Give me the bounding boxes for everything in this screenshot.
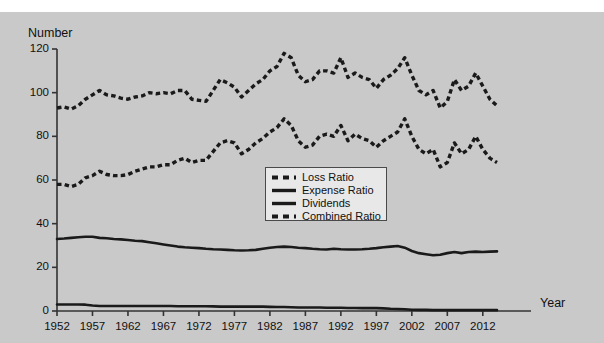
chart-figure: Number Year 020406080100120 195219571962… xyxy=(0,0,604,343)
legend-swatch-dashed-icon xyxy=(271,172,297,183)
series-line-dividends xyxy=(57,304,497,310)
legend-item-expense-ratio[interactable]: Expense Ratio xyxy=(271,184,382,196)
legend-label: Dividends xyxy=(302,198,350,209)
legend-label: Expense Ratio xyxy=(302,185,374,196)
series-line-expense-ratio xyxy=(57,237,497,256)
series-line-combined-ratio xyxy=(57,53,497,109)
legend-item-combined-ratio[interactable]: Combined Ratio xyxy=(271,210,382,222)
chart-legend: Loss RatioExpense RatioDividendsCombined… xyxy=(265,167,387,221)
legend-item-loss-ratio[interactable]: Loss Ratio xyxy=(271,171,382,183)
legend-label: Loss Ratio xyxy=(302,172,354,183)
legend-swatch-solid-icon xyxy=(271,185,297,196)
legend-label: Combined Ratio xyxy=(302,211,381,222)
legend-swatch-solid-icon xyxy=(271,198,297,209)
legend-swatch-dashed-icon xyxy=(271,211,297,222)
legend-item-dividends[interactable]: Dividends xyxy=(271,197,382,209)
